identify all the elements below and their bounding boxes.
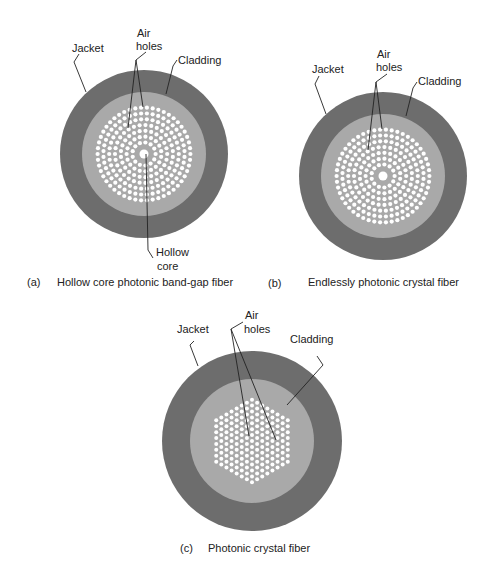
air-hole	[138, 169, 142, 173]
air-hole	[361, 138, 365, 142]
air-hole	[149, 168, 153, 172]
air-hole	[122, 131, 126, 135]
air-hole	[178, 171, 182, 175]
air-hole	[219, 415, 223, 419]
air-hole	[133, 106, 137, 110]
air-hole	[113, 146, 117, 150]
fiber-b-air-label-line2: holes	[376, 61, 403, 73]
air-hole	[159, 149, 163, 153]
air-hole	[405, 206, 409, 210]
air-hole	[409, 183, 413, 187]
air-hole	[128, 184, 132, 188]
air-hole	[362, 160, 366, 164]
air-hole	[286, 424, 290, 428]
air-hole	[340, 152, 344, 156]
air-hole	[96, 146, 100, 150]
air-hole	[106, 132, 110, 136]
air-hole	[352, 180, 356, 184]
air-hole	[182, 149, 186, 153]
air-hole	[107, 152, 111, 156]
air-hole	[159, 136, 163, 140]
air-hole	[235, 407, 239, 411]
air-hole	[250, 421, 254, 425]
air-hole	[367, 212, 371, 216]
air-hole	[219, 451, 223, 455]
air-hole	[143, 129, 147, 133]
air-hole	[382, 145, 386, 149]
air-hole	[255, 460, 259, 464]
air-hole	[372, 182, 376, 186]
air-hole	[388, 190, 392, 194]
air-hole	[265, 407, 269, 411]
air-hole	[270, 439, 274, 443]
air-hole	[410, 171, 414, 175]
air-hole	[286, 442, 290, 446]
fiber-c-caption-text: Photonic crystal fiber	[208, 542, 310, 554]
air-hole	[398, 158, 402, 162]
air-hole	[108, 184, 112, 188]
air-hole	[286, 448, 290, 452]
air-hole	[270, 457, 274, 461]
air-hole	[140, 150, 149, 159]
air-hole	[118, 168, 122, 172]
air-hole	[377, 151, 381, 155]
air-hole	[276, 448, 280, 452]
air-hole	[230, 469, 234, 473]
air-hole	[250, 474, 254, 478]
air-hole	[340, 171, 344, 175]
air-hole	[371, 147, 375, 151]
fiber-b-air-label-line1: Air	[377, 48, 391, 60]
air-hole	[364, 174, 368, 178]
air-hole	[357, 148, 361, 152]
air-hole	[260, 415, 264, 419]
air-hole	[161, 181, 165, 185]
air-hole	[118, 126, 122, 130]
air-hole	[395, 136, 399, 140]
air-hole	[281, 451, 285, 455]
air-hole	[255, 412, 259, 416]
air-hole	[133, 192, 137, 196]
fiber-c-jacket-leader	[190, 341, 198, 366]
air-hole	[343, 201, 347, 205]
air-hole	[270, 415, 274, 419]
air-hole	[352, 174, 356, 178]
air-hole	[348, 185, 352, 189]
air-hole	[148, 142, 152, 146]
air-hole	[240, 410, 244, 414]
air-hole	[417, 193, 421, 197]
air-hole	[281, 463, 285, 467]
air-hole	[175, 141, 179, 145]
air-hole	[164, 171, 168, 175]
air-hole	[240, 404, 244, 408]
air-hole	[393, 161, 397, 165]
air-hole	[371, 188, 375, 192]
air-hole	[179, 179, 183, 183]
air-hole	[409, 165, 413, 169]
air-hole	[162, 110, 166, 114]
air-hole	[101, 174, 105, 178]
air-hole	[250, 469, 254, 473]
air-hole	[372, 140, 376, 144]
air-hole	[240, 427, 244, 431]
air-hole	[117, 191, 121, 195]
air-hole	[340, 196, 344, 200]
air-hole	[133, 197, 137, 201]
air-hole	[352, 145, 356, 149]
air-hole	[230, 463, 234, 467]
air-hole	[382, 203, 386, 207]
air-hole	[122, 116, 126, 120]
air-hole	[182, 143, 186, 147]
air-hole	[398, 177, 402, 181]
air-hole	[276, 454, 280, 458]
air-hole	[177, 152, 181, 156]
air-hole	[395, 212, 399, 216]
air-hole	[102, 143, 106, 147]
air-hole	[403, 155, 407, 159]
air-hole	[143, 135, 147, 139]
air-hole	[230, 421, 234, 425]
air-hole	[388, 146, 392, 150]
air-hole	[377, 197, 381, 201]
air-hole	[125, 158, 129, 162]
air-hole	[377, 185, 381, 189]
fiber-a-hollow-core: Jacket Air holes Cladding Hollow core (a…	[27, 27, 233, 288]
